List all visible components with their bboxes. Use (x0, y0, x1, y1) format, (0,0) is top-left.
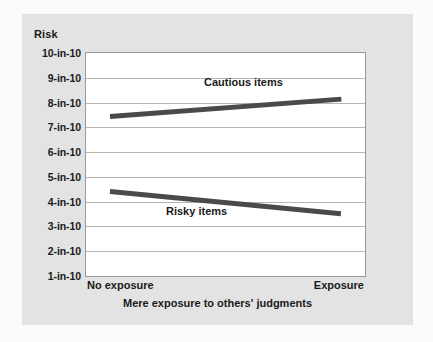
gridline (86, 152, 365, 153)
y-tick-label: 2-in-10 (48, 245, 81, 257)
x-axis-title: Mere exposure to others' judgments (22, 297, 413, 309)
y-tick-label: 5-in-10 (48, 171, 81, 183)
y-axis-title: Risk (34, 28, 58, 40)
figure-panel: Risk 1-in-102-in-103-in-104-in-105-in-10… (22, 14, 413, 325)
y-tick-label: 1-in-10 (48, 270, 81, 282)
series-label-risky-items: Risky items (166, 205, 227, 217)
x-tick-label: No exposure (87, 279, 154, 291)
y-tick-label: 4-in-10 (48, 196, 81, 208)
x-tick-label: Exposure (314, 279, 364, 291)
y-tick-label: 9-in-10 (48, 72, 81, 84)
y-tick-label: 10-in-10 (42, 47, 81, 59)
gridline (86, 127, 365, 128)
gridline (86, 226, 365, 227)
series-label-cautious-items: Cautious items (204, 76, 283, 88)
gridline (86, 177, 365, 178)
y-tick-label: 7-in-10 (48, 121, 81, 133)
y-tick-label: 3-in-10 (48, 220, 81, 232)
series-line-cautious-items (110, 96, 341, 118)
plot-area: 1-in-102-in-103-in-104-in-105-in-106-in-… (85, 52, 366, 277)
y-tick-label: 6-in-10 (48, 146, 81, 158)
gridline (86, 251, 365, 252)
y-tick-label: 8-in-10 (48, 97, 81, 109)
